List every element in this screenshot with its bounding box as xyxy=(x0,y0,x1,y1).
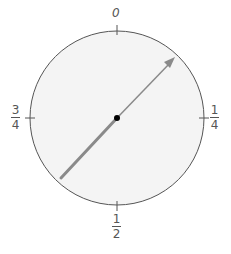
label-top: 0 xyxy=(112,6,120,20)
center-dot xyxy=(114,115,120,121)
numerator: 1 xyxy=(211,104,219,116)
numerator: 1 xyxy=(113,213,121,225)
denominator: 4 xyxy=(12,119,20,131)
denominator: 4 xyxy=(211,119,219,131)
label-bottom: 1 2 xyxy=(112,213,121,240)
numerator: 3 xyxy=(12,104,20,116)
label-right: 1 4 xyxy=(210,104,219,131)
label-left: 3 4 xyxy=(11,104,20,131)
denominator: 2 xyxy=(113,228,121,240)
